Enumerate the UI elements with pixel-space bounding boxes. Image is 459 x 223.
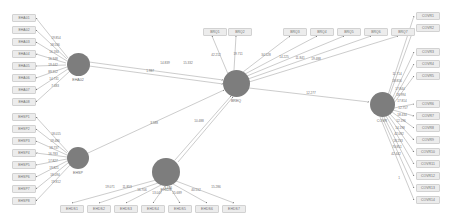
edge-coefficient-label: 89.312 <box>48 70 57 74</box>
edge-coefficient-label: 34.528 <box>261 53 270 57</box>
edge-coefficient-label: 18.816 <box>392 79 401 83</box>
edge-coefficient-label: 18.994 <box>396 93 405 97</box>
indicator-box-right-bottom-7[interactable]: COVR13 <box>416 184 440 192</box>
indicator-box-left-top-2[interactable]: EHA03 <box>12 38 36 46</box>
edge-coefficient-label: 17.844 <box>395 87 404 91</box>
latent-node-l5[interactable] <box>370 92 395 117</box>
indicator-box-right-top-2[interactable]: COVR3 <box>416 48 440 56</box>
edge-coefficient-label: 19.711 <box>233 52 242 56</box>
indicator-box-right-top-4[interactable]: COVR5 <box>416 72 440 80</box>
latent-node-label-l2: EHSP <box>73 171 83 175</box>
edge-l4-to-l3 <box>178 97 233 162</box>
edge-coefficient-label: 10.488 <box>194 119 203 123</box>
indicator-box-left-bottom-4[interactable]: EHSP5 <box>12 161 36 169</box>
edge-coefficient-label: 16.348 <box>48 57 57 61</box>
indicator-box-top-1[interactable]: BRQ2 <box>228 28 252 36</box>
indicator-box-left-top-4[interactable]: EHA05 <box>12 62 36 70</box>
indicator-box-bottom-3[interactable]: EHDS4 <box>141 205 165 213</box>
indicator-box-left-bottom-6[interactable]: EHSP7 <box>12 185 36 193</box>
indicator-box-top-4[interactable]: BRQ5 <box>337 28 361 36</box>
indicator-box-left-top-1[interactable]: EHA02 <box>12 26 36 34</box>
indicator-box-top-3[interactable]: BRQ4 <box>310 28 334 36</box>
edge-coefficient-label: 14.839 <box>160 61 169 65</box>
edge-coefficient-label: 16.184 <box>49 50 58 54</box>
edge-coefficient-label: 15.332 <box>183 61 192 65</box>
edge-coefficient-label: 40.512 <box>191 188 200 192</box>
indicator-box-left-bottom-2[interactable]: EHSP3 <box>12 137 36 145</box>
edge-coefficient-label: 19.071 <box>105 185 114 189</box>
latent-node-l2[interactable] <box>67 147 89 169</box>
indicator-box-left-top-0[interactable]: EHA01 <box>12 14 36 22</box>
indicator-box-left-bottom-1[interactable]: EHSP2 <box>12 125 36 133</box>
indicator-box-left-bottom-5[interactable]: EHSP6 <box>12 173 36 181</box>
indicator-box-right-bottom-3[interactable]: COVR9 <box>416 136 440 144</box>
indicator-box-right-bottom-2[interactable]: COVR8 <box>416 124 440 132</box>
edge-coefficient-label: 14.198 <box>395 126 404 130</box>
edge-coefficient-label: 17.827 <box>48 159 57 163</box>
indicator-box-left-bottom-3[interactable]: EHSP4 <box>12 149 36 157</box>
edge-coefficient-label: 19.854 <box>51 36 60 40</box>
indicator-box-bottom-6[interactable]: EHDS7 <box>222 205 246 213</box>
indicator-box-left-bottom-7[interactable]: EHSP8 <box>12 197 36 205</box>
edge-coefficient-label: 19.821 <box>49 166 58 170</box>
indicator-box-right-top-0[interactable]: COVR1 <box>416 12 440 20</box>
indicator-box-left-top-6[interactable]: EHA07 <box>12 86 36 94</box>
edge-coefficient-label: 18.094 <box>50 173 59 177</box>
indicator-box-top-5[interactable]: BRQ6 <box>364 28 388 36</box>
edge-coefficient-label: 18.737 <box>49 146 58 150</box>
indicator-box-right-bottom-4[interactable]: COVR10 <box>416 148 440 156</box>
indicator-box-left-bottom-0[interactable]: EHSP1 <box>12 113 36 121</box>
latent-node-l4[interactable] <box>152 158 180 186</box>
edge-l3-to-b-t-5 <box>248 36 371 79</box>
edge-l4-to-l3 <box>175 96 231 160</box>
edge-coefficient-label: 3.588 <box>150 121 158 125</box>
indicator-box-right-bottom-8[interactable]: COVR14 <box>416 196 440 204</box>
edge-coefficient-label: 12.757 <box>398 106 407 110</box>
indicator-box-bottom-5[interactable]: EHDS6 <box>195 205 219 213</box>
edge-coefficient-label: 19.486 <box>50 139 59 143</box>
indicator-box-bottom-4[interactable]: EHDS5 <box>168 205 192 213</box>
edge-coefficient-label: 19.812 <box>51 180 60 184</box>
indicator-box-right-bottom-1[interactable]: COVR7 <box>416 112 440 120</box>
edge-coefficient-label: 18.233 <box>393 139 402 143</box>
indicator-box-top-0[interactable]: BRQ1 <box>203 28 227 36</box>
indicator-box-top-6[interactable]: BRQ7 <box>391 28 415 36</box>
indicator-box-right-bottom-0[interactable]: COVR6 <box>416 100 440 108</box>
edge-coefficient-label: 12.196 <box>396 119 405 123</box>
edge-coefficient-label: 70.851 <box>392 145 401 149</box>
edge-coefficient-label: 11.853 <box>122 185 131 189</box>
indicator-box-right-top-3[interactable]: COVR4 <box>416 60 440 68</box>
indicator-box-left-top-7[interactable]: EHA08 <box>12 98 36 106</box>
edge-coefficient-label: 19.488 <box>311 57 320 61</box>
edge-coefficient-label: 42.212 <box>211 53 220 57</box>
latent-node-l1[interactable] <box>67 53 90 76</box>
indicator-box-bottom-0[interactable]: EHDS1 <box>60 205 84 213</box>
path-diagram-canvas: EHA01EHA02EHA03EHA04EHA05EHA06EHA07EHA08… <box>0 0 459 223</box>
indicator-box-right-bottom-5[interactable]: COVR11 <box>416 160 440 168</box>
edge-coefficient-label: 7.483 <box>51 84 59 88</box>
edge-coefficient-label: 16.706 <box>137 188 146 192</box>
indicator-box-right-top-1[interactable]: COVR2 <box>416 24 440 32</box>
edge-coefficient-label: 11.714 <box>392 72 401 76</box>
edge-coefficient-label: 13.047 <box>152 191 161 195</box>
edge-coefficient-label: 19.442 <box>48 63 57 67</box>
edge-l1-to-l3 <box>89 62 223 80</box>
edge-coefficient-label: 14.731 <box>49 77 58 81</box>
edge-coefficient-label: 18.015 <box>51 132 60 136</box>
edge-l3-to-b-t-6 <box>249 36 398 82</box>
indicator-box-top-2[interactable]: BRQ3 <box>283 28 307 36</box>
indicator-box-left-top-5[interactable]: EHA06 <box>12 74 36 82</box>
latent-node-label-l1: EHA02 <box>72 78 83 82</box>
indicator-box-bottom-1[interactable]: EHDS2 <box>87 205 111 213</box>
indicator-box-left-top-3[interactable]: EHA04 <box>12 50 36 58</box>
edge-coefficient-label: 16.783 <box>48 152 57 156</box>
indicator-box-right-bottom-6[interactable]: COVR12 <box>416 172 440 180</box>
edge-coefficient-label: 11.841 <box>295 56 304 60</box>
edge-coefficient-label: 18.536 <box>50 43 59 47</box>
latent-node-l3[interactable] <box>223 70 250 97</box>
edge-coefficient-label: 1.987 <box>146 69 154 73</box>
latent-node-label-l5: COVR <box>377 119 387 123</box>
indicator-box-bottom-2[interactable]: EHDS3 <box>114 205 138 213</box>
edge-coefficient-label: 14.225 <box>279 55 288 59</box>
latent-node-label-l3: BREQ <box>231 99 241 103</box>
